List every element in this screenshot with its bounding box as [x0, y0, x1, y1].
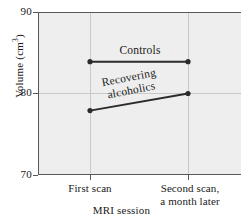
data-point-alcoholics-second-scan [185, 91, 190, 96]
series-controls [87, 59, 190, 64]
data-point-controls-second-scan [185, 59, 190, 64]
chart-figure: 90 80 70 First scan Second scan, a month… [0, 0, 243, 220]
data-series-layer [0, 0, 243, 220]
data-point-controls-first-scan [87, 59, 92, 64]
series-label-controls: Controls [104, 44, 176, 57]
data-point-alcoholics-first-scan [87, 108, 92, 113]
